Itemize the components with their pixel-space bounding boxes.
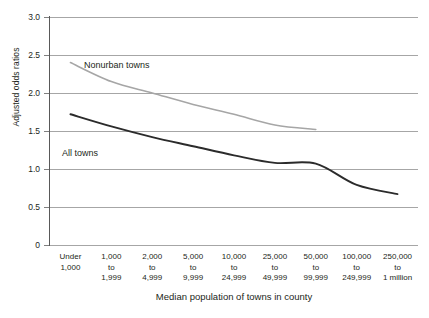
- y-axis-tick-label: 3.0: [14, 13, 40, 22]
- plot-area: [50, 17, 418, 245]
- x-axis-category-line: to: [91, 263, 132, 274]
- x-axis-category-label: 10,000to24,999: [214, 252, 255, 284]
- chart-figure: Adjusted odds ratios 00.51.01.52.02.53.0…: [0, 0, 429, 318]
- series-label-nonurban-towns: Nonurban towns: [84, 60, 150, 70]
- x-axis-category-line: to: [254, 263, 295, 274]
- x-axis-category-line: 4,999: [132, 273, 173, 284]
- x-axis-category-label: 5,000to9,999: [173, 252, 214, 284]
- y-axis-tick-label: 2.0: [14, 89, 40, 98]
- x-axis-category-label: 250,000to1 million: [377, 252, 418, 284]
- x-axis-category-line: to: [336, 263, 377, 274]
- x-axis-category-line: 1,000: [50, 263, 91, 274]
- x-axis-category-line: Under: [50, 252, 91, 263]
- x-axis-category-line: 1,999: [91, 273, 132, 284]
- x-axis-category-line: to: [377, 263, 418, 274]
- x-axis-category-label: 100,000to249,999: [336, 252, 377, 284]
- x-axis-category-label: Under1,000: [50, 252, 91, 284]
- series-line-all-towns: [70, 114, 397, 194]
- series-line-nonurban-towns: [70, 63, 315, 130]
- x-axis-category-line: 1,000: [91, 252, 132, 263]
- series-label-all-towns: All towns: [62, 148, 98, 158]
- x-axis-category-line: to: [295, 263, 336, 274]
- x-axis-category-label: 1,000to1,999: [91, 252, 132, 284]
- y-axis-tick-label: 2.5: [14, 51, 40, 60]
- x-axis-category-line: 10,000: [214, 252, 255, 263]
- x-axis-category-line: 49,999: [254, 273, 295, 284]
- x-axis-category-line: to: [214, 263, 255, 274]
- x-axis-category-line: 9,999: [173, 273, 214, 284]
- x-axis-category-line: 249,999: [336, 273, 377, 284]
- x-axis-category-line: 25,000: [254, 252, 295, 263]
- x-axis-category-line: 2,000: [132, 252, 173, 263]
- series-layer: [50, 17, 418, 245]
- x-axis-categories: Under1,0001,000to1,9992,000to4,9995,000t…: [50, 252, 418, 284]
- x-axis-title: Median population of towns in county: [50, 291, 418, 302]
- x-axis-category-line: 50,000: [295, 252, 336, 263]
- y-axis-tick-label: 1.0: [14, 165, 40, 174]
- x-axis-category-line: 250,000: [377, 252, 418, 263]
- x-axis-category-label: 2,000to4,999: [132, 252, 173, 284]
- y-axis-tick-label: 1.5: [14, 127, 40, 136]
- x-axis-category-label: 50,000to99,999: [295, 252, 336, 284]
- y-axis-tick-label: 0.5: [14, 203, 40, 212]
- x-axis-category-line: to: [132, 263, 173, 274]
- gridline: [50, 245, 418, 246]
- x-axis-category-line: 99,999: [295, 273, 336, 284]
- x-axis-category-line: 1 million: [377, 273, 418, 284]
- y-axis-tick-label: 0: [14, 241, 40, 250]
- x-axis-category-line: 24,999: [214, 273, 255, 284]
- x-axis-category-line: to: [173, 263, 214, 274]
- x-axis-category-line: 100,000: [336, 252, 377, 263]
- x-axis-category-line: 5,000: [173, 252, 214, 263]
- x-axis-category-label: 25,000to49,999: [254, 252, 295, 284]
